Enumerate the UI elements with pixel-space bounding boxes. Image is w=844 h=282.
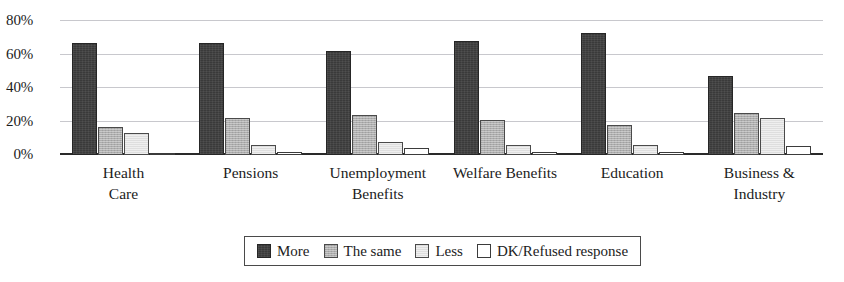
x-axis-category-label: Business & Industry <box>678 162 841 204</box>
bar[interactable] <box>404 148 429 155</box>
y-axis-tick-label: 60% <box>0 47 33 62</box>
legend-swatch-icon <box>477 244 491 258</box>
bar[interactable] <box>225 118 250 155</box>
bar[interactable] <box>532 152 557 155</box>
grouped-bar-chart: 0%20%40%60%80% Health CarePensionsUnempl… <box>0 0 844 282</box>
bar-group <box>454 21 557 155</box>
bar[interactable] <box>633 145 658 155</box>
bar[interactable] <box>506 145 531 155</box>
legend-swatch-icon <box>257 244 271 258</box>
legend-swatch-icon <box>324 244 338 258</box>
legend-label: The same <box>344 244 402 259</box>
bar[interactable] <box>760 118 785 155</box>
legend-swatch-icon <box>415 244 429 258</box>
y-axis-tick-label: 80% <box>0 13 33 28</box>
bar[interactable] <box>124 133 149 155</box>
bar-group <box>581 21 684 155</box>
bar[interactable] <box>72 43 97 155</box>
bar[interactable] <box>708 76 733 155</box>
legend-item[interactable]: Less <box>415 244 463 259</box>
y-axis-tick-label: 0% <box>0 147 33 162</box>
bar[interactable] <box>378 142 403 155</box>
bar-group <box>199 21 302 155</box>
bar[interactable] <box>480 120 505 155</box>
bar[interactable] <box>277 152 302 155</box>
bar[interactable] <box>199 43 224 155</box>
bar[interactable] <box>98 127 123 155</box>
bar-group <box>708 21 811 155</box>
bar[interactable] <box>659 152 684 155</box>
bar[interactable] <box>352 115 377 155</box>
bar[interactable] <box>326 51 351 155</box>
bar[interactable] <box>786 146 811 155</box>
bar[interactable] <box>251 145 276 155</box>
bar[interactable] <box>454 41 479 155</box>
legend-item[interactable]: The same <box>324 244 402 259</box>
y-axis-tick-label: 40% <box>0 80 33 95</box>
plot-area: 0%20%40%60%80% <box>60 21 823 155</box>
y-axis-tick-label: 20% <box>0 114 33 129</box>
chart-legend: MoreThe sameLessDK/Refused response <box>244 236 641 266</box>
legend-item[interactable]: More <box>257 244 310 259</box>
bar-groups <box>60 21 823 155</box>
bar-group <box>72 21 175 155</box>
bar[interactable] <box>734 113 759 155</box>
bar[interactable] <box>581 33 606 155</box>
legend-label: Less <box>435 244 463 259</box>
bar[interactable] <box>150 153 175 156</box>
bar[interactable] <box>607 125 632 155</box>
legend-label: More <box>277 244 310 259</box>
x-axis-category-labels: Health CarePensionsUnemployment Benefits… <box>60 162 823 222</box>
legend-label: DK/Refused response <box>497 244 628 259</box>
legend-item[interactable]: DK/Refused response <box>477 244 628 259</box>
bar-group <box>326 21 429 155</box>
